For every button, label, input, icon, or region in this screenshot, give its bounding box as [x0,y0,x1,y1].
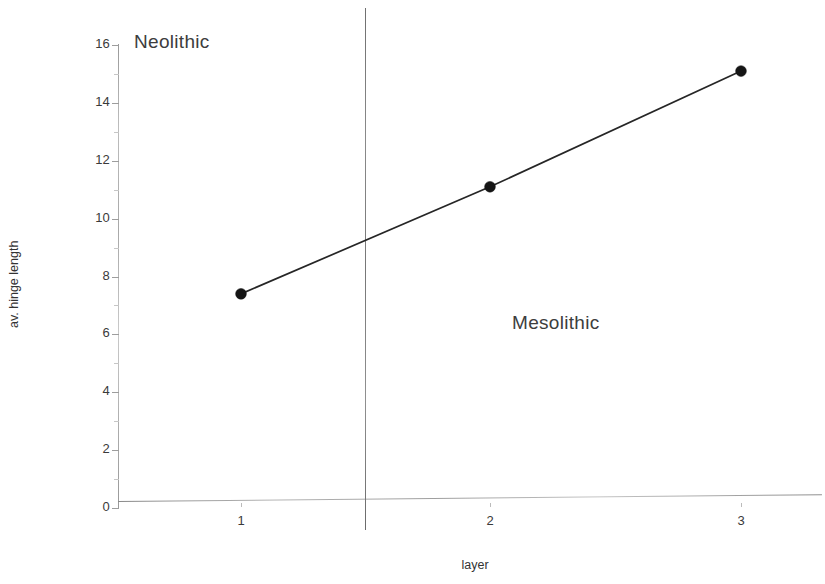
y-tick-label: 12 [72,152,110,167]
x-tick-label: 3 [721,513,761,528]
y-tick-mark [112,508,119,509]
y-tick-mark [112,103,119,104]
y-tick-label: 0 [72,499,110,514]
y-tick-label-wrap: 6 [64,325,110,342]
y-tick-label: 6 [72,325,110,340]
y-tick-mark [112,161,119,162]
y-tick-minor-mark [114,305,119,306]
period-boundary-divider [365,8,366,530]
y-tick-label: 14 [72,94,110,109]
y-tick-mark [112,334,119,335]
x-tick-mark [741,503,742,507]
x-axis-line [118,494,822,502]
annotation-mesolithic: Mesolithic [512,312,599,334]
y-tick-label: 2 [72,441,110,456]
chart-figure: 0246810121416 123 av. hinge length layer… [0,0,825,584]
y-tick-minor-mark [114,479,119,480]
data-point-marker [236,288,247,299]
y-tick-minor-mark [114,248,119,249]
y-tick-minor-mark [114,363,119,364]
y-tick-label-wrap: 4 [64,383,110,400]
y-tick-mark [112,45,119,46]
y-tick-minor-mark [114,421,119,422]
y-tick-label-wrap: 2 [64,441,110,458]
y-tick-minor-mark [114,74,119,75]
y-tick-minor-mark [114,190,119,191]
series-line [241,71,741,294]
y-tick-label-wrap: 0 [64,499,110,516]
x-axis-title: layer [405,558,545,572]
x-tick-label: 1 [221,513,261,528]
data-point-marker [485,181,496,192]
y-tick-mark [112,450,119,451]
y-tick-label-wrap: 12 [64,152,110,169]
x-tick-mark [490,503,491,507]
y-tick-label: 10 [72,210,110,225]
x-tick-label: 2 [470,513,510,528]
y-tick-label: 4 [72,383,110,398]
y-tick-label-wrap: 14 [64,94,110,111]
data-point-marker [736,66,747,77]
y-tick-mark [112,277,119,278]
y-tick-mark [112,392,119,393]
y-tick-minor-mark [114,132,119,133]
annotation-neolithic: Neolithic [134,31,210,53]
y-tick-label: 16 [72,36,110,51]
y-tick-label: 8 [72,268,110,283]
y-axis-title: av. hinge length [7,241,21,328]
y-tick-mark [112,219,119,220]
y-tick-label-wrap: 10 [64,210,110,227]
y-tick-label-wrap: 16 [64,36,110,53]
y-tick-label-wrap: 8 [64,268,110,285]
x-tick-mark [241,503,242,507]
